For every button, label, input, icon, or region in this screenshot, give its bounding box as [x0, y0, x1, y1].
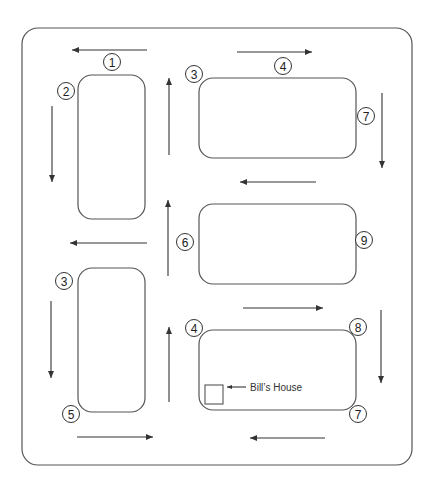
marker-number: 5: [68, 408, 75, 422]
marker-number: 3: [191, 68, 198, 82]
marker-number: 1: [109, 56, 116, 70]
marker-number: 4: [191, 322, 198, 336]
house-label: Bill’s House: [250, 382, 302, 393]
corner-marker-2: 2: [58, 83, 75, 100]
corner-marker-3: 3: [56, 273, 73, 290]
traffic-arrows: [51, 50, 382, 438]
corner-marker-8: 8: [350, 319, 367, 336]
marker-number: 6: [182, 236, 189, 250]
street-map-diagram: 123476935487 Bill’s House: [0, 0, 434, 487]
marker-number: 7: [355, 408, 362, 422]
marker-number: 8: [355, 321, 362, 335]
corner-marker-4: 4: [186, 320, 203, 337]
house-icon: [205, 385, 223, 404]
corner-marker-4: 4: [275, 58, 292, 75]
corner-marker-6: 6: [177, 234, 194, 251]
corner-marker-3: 3: [186, 66, 203, 83]
corner-marker-5: 5: [63, 406, 80, 423]
marker-number: 3: [61, 275, 68, 289]
block-top-left: [78, 75, 145, 219]
corner-marker-9: 9: [356, 232, 373, 249]
marker-number: 4: [280, 60, 287, 74]
marker-number: 7: [363, 110, 370, 124]
block-middle-right: [199, 204, 356, 284]
corner-marker-7: 7: [350, 406, 367, 423]
bills-house: Bill’s House: [205, 382, 302, 404]
block-top-right: [199, 78, 356, 158]
corner-markers: 123476935487: [56, 54, 375, 423]
corner-marker-1: 1: [104, 54, 121, 71]
block-bottom-left: [78, 268, 145, 412]
marker-number: 9: [361, 234, 368, 248]
marker-number: 2: [63, 85, 70, 99]
corner-marker-7: 7: [358, 108, 375, 125]
